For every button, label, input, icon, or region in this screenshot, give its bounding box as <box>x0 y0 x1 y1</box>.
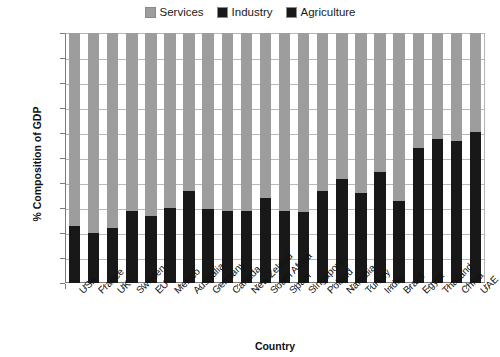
x-axis-tick-mark <box>141 284 142 289</box>
x-axis-tick-mark <box>447 284 448 289</box>
x-axis-tick-mark <box>218 284 219 289</box>
y-axis-tick-mark <box>60 233 65 234</box>
x-axis-tick-mark <box>103 284 104 289</box>
y-axis-tick-mark <box>60 83 65 84</box>
x-axis-tick-mark <box>122 284 123 289</box>
plot-area <box>65 33 485 283</box>
x-axis-tick-mark <box>409 284 410 289</box>
gridline <box>66 59 484 60</box>
x-axis-tick-mark <box>428 284 429 289</box>
x-axis-tick-mark <box>466 284 467 289</box>
y-axis-tick-mark <box>60 33 65 34</box>
y-axis-title: % Composition of GDP <box>31 64 43 264</box>
y-axis-tick-mark <box>60 108 65 109</box>
legend-label: Agriculture <box>301 7 356 19</box>
x-axis-tick-mark <box>256 284 257 289</box>
gridline <box>66 159 484 160</box>
y-axis-tick-mark <box>60 258 65 259</box>
gridline <box>66 109 484 110</box>
x-axis-tick-mark <box>313 284 314 289</box>
x-axis-tick-mark <box>485 284 486 289</box>
legend-swatch-icon <box>286 7 297 18</box>
gridline <box>66 84 484 85</box>
legend-swatch-icon <box>145 7 156 18</box>
x-axis-tick-mark <box>275 284 276 289</box>
x-axis-tick-mark <box>370 284 371 289</box>
legend-item[interactable]: Industry <box>217 7 273 19</box>
x-axis-tick-mark <box>332 284 333 289</box>
x-axis-title: Country <box>65 340 485 352</box>
x-axis-tick-mark <box>199 284 200 289</box>
x-axis-tick-mark <box>180 284 181 289</box>
y-axis-tick-mark <box>60 183 65 184</box>
y-axis-tick-mark <box>60 158 65 159</box>
x-axis-tick-labels: USAFranceUKSwedenEUMexicoAustraliaGerman… <box>65 288 485 340</box>
y-axis-tick-mark <box>60 133 65 134</box>
legend-label: Services <box>160 7 204 19</box>
x-axis-tick-mark <box>351 284 352 289</box>
x-axis-tick-mark <box>160 284 161 289</box>
gridline <box>66 259 484 260</box>
x-axis-tick-mark <box>390 284 391 289</box>
gridline <box>66 234 484 235</box>
gridline <box>66 134 484 135</box>
x-axis-tick-mark <box>84 284 85 289</box>
y-axis-tick-mark <box>60 58 65 59</box>
chart-legend: ServicesIndustryAgriculture <box>0 7 500 19</box>
legend-swatch-icon <box>217 7 228 18</box>
legend-item[interactable]: Services <box>145 7 204 19</box>
x-axis-tick-mark <box>237 284 238 289</box>
y-axis-tick-mark <box>60 208 65 209</box>
chart-container: ServicesIndustryAgriculture % Compositio… <box>0 0 500 357</box>
gridline <box>66 184 484 185</box>
legend-label: Industry <box>232 7 273 19</box>
legend-item[interactable]: Agriculture <box>286 7 356 19</box>
x-axis-tick-mark <box>65 284 66 289</box>
x-axis-tick-mark <box>294 284 295 289</box>
gridline <box>66 209 484 210</box>
